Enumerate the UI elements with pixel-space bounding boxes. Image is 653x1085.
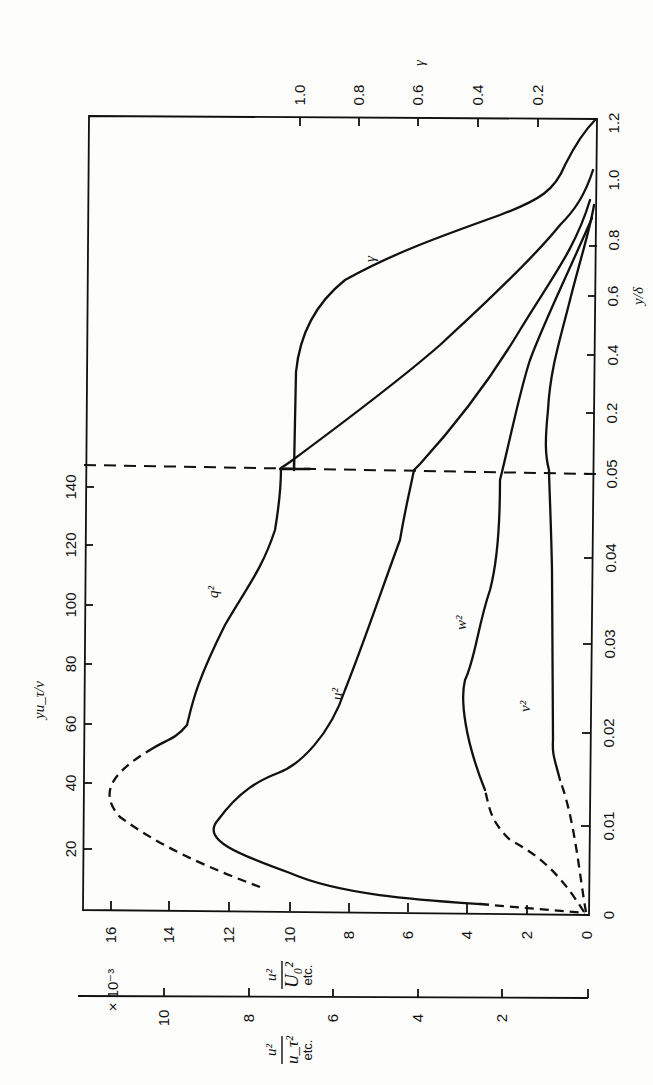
svg-text:4: 4 (409, 1014, 426, 1022)
svg-text:1.0: 1.0 (605, 170, 622, 191)
svg-text:1.0: 1.0 (291, 85, 308, 106)
svg-text:0.8: 0.8 (350, 85, 367, 106)
secondary-value-axis-tick-labels: 2 4 6 8 10 (155, 1010, 510, 1027)
multiplier-label: × 10⁻³ (104, 969, 121, 1012)
svg-text:0.8: 0.8 (605, 230, 622, 251)
curve-gamma (280, 119, 596, 470)
ydelta-axis-tick-labels: 0 0.01 0.02 0.03 0.04 0.05 0.2 0.4 0.6 0… (600, 113, 622, 920)
svg-text:10: 10 (281, 927, 298, 944)
svg-text:10: 10 (155, 1010, 172, 1027)
svg-text:6: 6 (324, 1014, 341, 1022)
svg-text:0.02: 0.02 (600, 718, 617, 747)
svg-text:0.2: 0.2 (603, 403, 620, 424)
svg-text:etc.: etc. (300, 965, 315, 986)
chart-canvas: 20 40 60 80 100 120 140 yu_τ/ν 0 2 4 6 8… (0, 0, 653, 1085)
svg-text:2: 2 (493, 1014, 510, 1022)
label-gamma: γ (362, 255, 378, 262)
svg-text:0: 0 (600, 911, 617, 919)
label-q2: q² (205, 586, 221, 599)
svg-text:80: 80 (62, 656, 79, 673)
svg-text:0.2: 0.2 (529, 85, 546, 106)
yplus-axis-label: yu_τ/ν (31, 681, 47, 721)
svg-text:20: 20 (62, 841, 79, 858)
yplus-axis-tick-labels: 20 40 60 80 100 120 140 (62, 474, 79, 857)
svg-text:8: 8 (340, 931, 357, 939)
separator-line (84, 465, 596, 474)
svg-text:U₀²: U₀² (281, 962, 302, 988)
label-v2: v² (517, 700, 533, 712)
svg-text:0.4: 0.4 (604, 345, 621, 366)
svg-text:8: 8 (240, 1014, 257, 1022)
svg-text:140: 140 (62, 474, 79, 499)
svg-text:0: 0 (578, 931, 595, 939)
gamma-axis-label: γ (411, 59, 427, 66)
gamma-axis-ticks (300, 118, 538, 127)
label-u2: u² (329, 688, 345, 701)
curve-u2 (214, 200, 590, 913)
curve-w2 (463, 218, 592, 912)
svg-text:0.03: 0.03 (601, 629, 618, 658)
svg-text:2: 2 (518, 931, 535, 939)
svg-text:16: 16 (102, 927, 119, 944)
svg-text:0.04: 0.04 (602, 543, 619, 572)
svg-text:u²: u² (263, 1044, 279, 1057)
svg-text:etc.: etc. (300, 1040, 315, 1061)
curve-labels: q² u² w² v² γ (205, 255, 533, 712)
svg-text:0.05: 0.05 (603, 459, 620, 488)
svg-text:0.6: 0.6 (604, 286, 621, 307)
svg-text:0.6: 0.6 (409, 85, 426, 106)
svg-text:0.01: 0.01 (600, 811, 617, 840)
value-axis-tick-labels: 0 2 4 6 8 10 12 14 16 (102, 927, 595, 944)
svg-text:6: 6 (399, 931, 416, 939)
svg-text:60: 60 (62, 716, 79, 733)
svg-text:100: 100 (62, 592, 79, 617)
svg-text:120: 120 (62, 532, 79, 557)
gamma-axis-tick-labels: 1.0 0.8 0.6 0.4 0.2 (291, 85, 546, 106)
primary-value-label: u² U₀² etc. (263, 961, 315, 989)
svg-text:1.2: 1.2 (605, 113, 622, 134)
plot-frame (83, 116, 597, 915)
svg-text:0.4: 0.4 (469, 85, 486, 106)
secondary-value-label: u² u_τ² etc. (263, 1035, 315, 1064)
svg-text:40: 40 (62, 775, 79, 792)
ydelta-axis-label: y/δ (630, 286, 646, 307)
svg-text:14: 14 (160, 927, 177, 944)
svg-text:u²: u² (263, 969, 279, 982)
label-w2: w² (453, 615, 469, 630)
svg-text:12: 12 (220, 927, 237, 944)
svg-text:4: 4 (458, 931, 475, 939)
